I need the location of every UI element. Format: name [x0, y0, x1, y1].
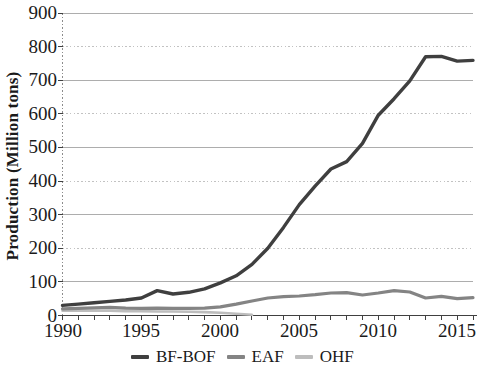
y-tick-label-800: 800 — [0, 35, 57, 59]
legend-label-eaf: EAF — [252, 347, 284, 367]
series-line-ohf — [63, 311, 253, 315]
legend-item-bf-bof: BF-BOF — [131, 347, 216, 367]
y-tick-label-900: 900 — [0, 1, 57, 25]
legend-label-bf-bof: BF-BOF — [156, 347, 216, 367]
y-tick-label-600: 600 — [0, 102, 57, 126]
legend-swatch-eaf — [227, 355, 245, 359]
chart: Production (Million tons) 01002003004005… — [0, 0, 479, 368]
y-tick-label-300: 300 — [0, 203, 57, 227]
y-tick-label-700: 700 — [0, 68, 57, 92]
y-tick-label-500: 500 — [0, 135, 57, 159]
legend-item-eaf: EAF — [227, 347, 284, 367]
legend-item-ohf: OHF — [295, 347, 354, 367]
x-tick-label-2005: 2005 — [259, 319, 339, 343]
legend-swatch-bf-bof — [131, 355, 149, 359]
plot-area — [0, 0, 479, 368]
x-tick-label-2015: 2015 — [417, 319, 479, 343]
y-tick-label-400: 400 — [0, 169, 57, 193]
legend-swatch-ohf — [295, 355, 313, 359]
legend: BF-BOF EAF OHF — [131, 347, 354, 367]
x-tick-label-1990: 1990 — [23, 319, 103, 343]
x-tick-label-2000: 2000 — [180, 319, 260, 343]
y-tick-label-200: 200 — [0, 236, 57, 260]
legend-label-ohf: OHF — [320, 347, 354, 367]
x-tick-label-1995: 1995 — [101, 319, 181, 343]
y-tick-label-100: 100 — [0, 270, 57, 294]
x-tick-label-2010: 2010 — [338, 319, 418, 343]
